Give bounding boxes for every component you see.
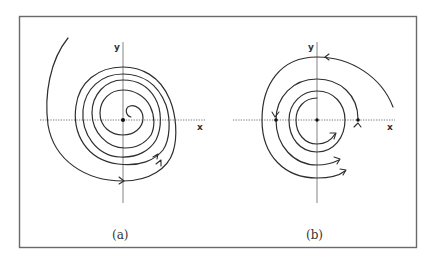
x-axis-label-a: x [197,122,203,132]
x-axis-label-b: x [387,122,393,132]
inner-trajectory-b [296,98,335,144]
phase-portrait-figure: y x (a) y x [0,0,422,260]
y-axis-label-a: y [114,42,120,52]
panel-b: y x (b) [233,42,395,242]
cycle-point-right-b [356,118,360,122]
equilibrium-point-a [121,118,125,122]
spiral-trajectory-a [47,38,176,181]
equilibrium-point-b [315,118,319,122]
panel-a: y x (a) [40,38,205,242]
y-axis-label-b: y [308,42,314,52]
direction-arrow-b-left [272,112,279,117]
caption-b: (b) [306,228,323,242]
direction-arrow-a-ring2 [156,160,161,166]
figure-frame [20,17,417,248]
direction-arrow-b-right [354,123,361,127]
outer-trajectory-b [262,57,393,178]
cycle-point-left-b [274,118,278,122]
caption-a: (a) [112,228,129,242]
